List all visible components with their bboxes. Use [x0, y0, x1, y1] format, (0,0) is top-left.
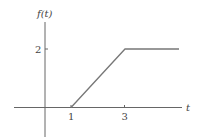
y-axis-label: f(t) — [36, 8, 53, 19]
x-tick-label-3: 3 — [122, 111, 128, 122]
y-tick-label-2: 2 — [35, 44, 41, 55]
x-tick-label-1: 1 — [68, 111, 74, 122]
x-axis-label: t — [186, 102, 191, 113]
chart: f(t) t 1 3 2 — [0, 0, 200, 137]
function-line — [71, 49, 179, 108]
